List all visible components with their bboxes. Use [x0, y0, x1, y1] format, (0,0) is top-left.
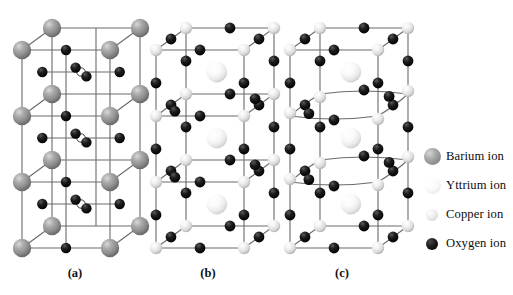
oxygen-ion [115, 133, 125, 143]
oxygen-ion [115, 199, 125, 209]
legend-label-yttrium: Yttrium ion [446, 178, 506, 193]
oxygen-ion [250, 93, 261, 104]
copper-ion [372, 179, 384, 191]
oxygen-ion [388, 34, 399, 45]
oxygen-ion [225, 221, 236, 232]
oxygen-ion [359, 85, 370, 96]
oxygen-ion [329, 115, 340, 126]
subfigure-label-a: (a) [45, 266, 105, 281]
yttrium-sphere-icon [418, 177, 446, 194]
barium-ion [13, 239, 31, 257]
barium-ion [13, 41, 31, 59]
oxygen-ion [285, 210, 296, 221]
barium-ion [43, 19, 61, 37]
oxygen-ion [195, 45, 206, 56]
oxygen-ion [373, 210, 384, 221]
yttrium-ion [340, 194, 361, 215]
legend-item-copper: Copper ion [418, 200, 513, 229]
oxygen-ion [37, 133, 47, 143]
oxygen-ion [37, 67, 47, 77]
oxygen-ion [373, 144, 384, 155]
copper-ion [284, 173, 296, 185]
copper-ion [150, 110, 162, 122]
copper-ion [180, 154, 192, 166]
oxygen-ion [151, 78, 162, 89]
oxygen-ion [269, 122, 280, 133]
barium-ion [13, 173, 31, 191]
oxygen-ion [239, 78, 250, 89]
copper-ion [150, 242, 162, 254]
copper-sphere-icon [418, 209, 446, 221]
copper-ion [314, 157, 326, 169]
copper-ion [314, 22, 326, 34]
oxygen-ion [329, 181, 340, 192]
copper-ion [150, 44, 162, 56]
oxygen-ion [81, 137, 91, 147]
oxygen-ion [304, 108, 315, 119]
oxygen-ion [300, 34, 311, 45]
oxygen-sphere-icon [418, 238, 446, 250]
barium-sphere-icon [418, 148, 446, 165]
copper-ion [402, 151, 414, 163]
oxygen-ion [403, 122, 414, 133]
legend-label-barium: Barium ion [446, 149, 504, 164]
legend-item-yttrium: Yttrium ion [418, 171, 513, 200]
barium-ion [13, 107, 31, 125]
copper-ion [402, 22, 414, 34]
oxygen-ion [225, 155, 236, 166]
legend-label-copper: Copper ion [446, 207, 503, 222]
oxygen-ion [61, 45, 71, 55]
yttrium-ion [206, 194, 227, 215]
oxygen-ion [359, 151, 370, 162]
legend: Barium ion Yttrium ion Copper ion Oxygen… [418, 142, 513, 258]
oxygen-ion [170, 172, 181, 183]
oxygen-ion [61, 111, 71, 121]
copper-ion [372, 44, 384, 56]
oxygen-ion [61, 243, 71, 253]
oxygen-ion [239, 144, 250, 155]
oxygen-ion [225, 89, 236, 100]
oxygen-ion [181, 56, 192, 67]
oxygen-ion [250, 159, 261, 170]
copper-ion [238, 176, 250, 188]
oxygen-ion [329, 243, 340, 254]
barium-ion [101, 41, 119, 59]
oxygen-ion [166, 232, 177, 243]
yttrium-ion [340, 128, 361, 149]
barium-ion [101, 173, 119, 191]
oxygen-ion [195, 177, 206, 188]
oxygen-ion [359, 23, 370, 34]
oxygen-ion [70, 194, 80, 204]
oxygen-ion [403, 56, 414, 67]
oxygen-ion [37, 199, 47, 209]
oxygen-ion [285, 78, 296, 89]
copper-ion [238, 242, 250, 254]
crystal-structure-figure: (a) (b) (c) Barium ion Yttrium ion Coppe… [0, 0, 513, 295]
copper-ion [268, 22, 280, 34]
oxygen-ion [181, 188, 192, 199]
yttrium-ion [340, 62, 361, 83]
oxygen-ion [388, 232, 399, 243]
barium-ion [131, 151, 149, 169]
copper-ion [402, 220, 414, 232]
oxygen-ion [304, 174, 315, 185]
oxygen-ion [359, 221, 370, 232]
subfigure-label-b: (b) [178, 266, 238, 281]
oxygen-ion [170, 106, 181, 117]
oxygen-ion [225, 23, 236, 34]
oxygen-ion [300, 232, 311, 243]
copper-ion [268, 88, 280, 100]
copper-ion [238, 110, 250, 122]
barium-ion [101, 239, 119, 257]
barium-ion [131, 217, 149, 235]
oxygen-ion [384, 91, 395, 102]
barium-ion [43, 217, 61, 235]
barium-ion [101, 107, 119, 125]
yttrium-ion [206, 62, 227, 83]
copper-ion [238, 44, 250, 56]
oxygen-ion [239, 210, 250, 221]
oxygen-ion [254, 232, 265, 243]
copper-ion [180, 220, 192, 232]
copper-ion [314, 91, 326, 103]
oxygen-ion [269, 188, 280, 199]
